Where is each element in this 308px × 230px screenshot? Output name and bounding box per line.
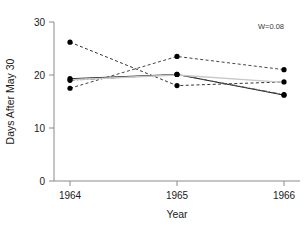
x-tick-label: 1965 bbox=[166, 190, 189, 201]
data-point bbox=[174, 83, 179, 88]
data-point bbox=[281, 79, 286, 84]
data-point bbox=[174, 72, 179, 77]
line-chart-plot: 0102030 Days After May 30 196419651966 Y… bbox=[0, 0, 308, 230]
y-tick-label: 0 bbox=[39, 176, 45, 187]
y-axis-title: Days After May 30 bbox=[4, 58, 16, 144]
data-point bbox=[67, 86, 72, 91]
chart-annotation: W=0.08 bbox=[258, 22, 284, 31]
annotation-layer: W=0.08 bbox=[258, 22, 284, 31]
data-point bbox=[67, 78, 72, 83]
y-tick-label: 30 bbox=[34, 17, 46, 28]
data-point bbox=[281, 92, 286, 97]
x-axis-ticks: 196419651966 bbox=[59, 181, 296, 201]
data-point bbox=[67, 40, 72, 45]
x-tick-label: 1964 bbox=[59, 190, 82, 201]
x-tick-label: 1966 bbox=[273, 190, 296, 201]
y-axis-group: 0102030 Days After May 30 bbox=[4, 17, 54, 187]
x-axis-title: Year bbox=[166, 208, 188, 220]
x-axis-group: 196419651966 Year bbox=[54, 181, 300, 220]
data-point bbox=[174, 54, 179, 59]
y-tick-label: 20 bbox=[34, 70, 46, 81]
y-tick-label: 10 bbox=[34, 123, 46, 134]
chart-container: 0102030 Days After May 30 196419651966 Y… bbox=[0, 0, 308, 230]
data-point bbox=[281, 67, 286, 72]
y-axis-ticks: 0102030 bbox=[34, 17, 54, 187]
